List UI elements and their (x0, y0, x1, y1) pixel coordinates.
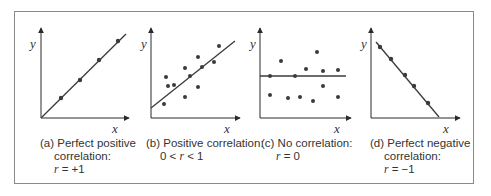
panel-a-plot: y x (28, 28, 129, 136)
data-point (166, 84, 170, 88)
data-point (162, 102, 166, 106)
data-point (212, 60, 216, 64)
data-point (311, 99, 315, 103)
data-point (172, 83, 176, 87)
data-point (116, 39, 120, 43)
panel-b-plot: y x (139, 28, 240, 136)
data-point (188, 74, 192, 78)
data-point (298, 95, 302, 99)
data-point (268, 93, 272, 97)
caption-b-post: < 1 (184, 150, 204, 162)
panel-d-plot: y x (359, 28, 460, 136)
caption-a-value: = +1 (58, 163, 84, 175)
caption-b-pre: 0 < (160, 150, 180, 162)
panel-c-plot: y x (248, 28, 351, 136)
x-axis-label-c: x (333, 121, 340, 136)
x-axis-label-a: x (111, 121, 118, 136)
caption-b-line1: (b) Positive correlation: (146, 137, 264, 149)
data-point (164, 75, 168, 79)
caption-c-value: = 0 (280, 150, 300, 162)
caption-b: (b) Positive correlation: 0 < r < 1 (146, 137, 264, 163)
data-point (315, 50, 319, 54)
data-point (336, 68, 340, 72)
data-point (196, 85, 200, 89)
data-point (200, 65, 204, 69)
fit-line-a (41, 34, 126, 118)
x-axis-label-d: x (442, 121, 449, 136)
data-point (321, 69, 325, 73)
caption-a-line1: (a) Perfect positive (40, 137, 136, 149)
caption-d-line1: (d) Perfect negative (370, 137, 470, 149)
data-point (426, 101, 430, 105)
caption-d: (d) Perfect negative correlation: r = −1 (370, 137, 470, 176)
caption-c: (c) No correlation: r = 0 (261, 137, 352, 163)
data-point (293, 74, 297, 78)
data-point (403, 73, 407, 77)
data-point (183, 66, 187, 70)
y-axis-label-a: y (28, 36, 36, 51)
data-point (286, 96, 290, 100)
data-point (389, 57, 393, 61)
data-point (78, 78, 82, 82)
caption-a: (a) Perfect positive correlation: r = +1 (40, 137, 136, 176)
data-point (268, 74, 272, 78)
caption-a-line2: correlation: (40, 150, 136, 163)
data-point (97, 58, 101, 62)
x-axis-label-b: x (223, 121, 230, 136)
caption-c-line1: (c) No correlation: (261, 137, 352, 149)
data-point (336, 95, 340, 99)
data-point (217, 44, 221, 48)
data-point (304, 67, 308, 71)
data-point (196, 55, 200, 59)
data-point (59, 96, 63, 100)
data-point (321, 84, 325, 88)
data-point (412, 84, 416, 88)
fit-line-b (151, 41, 235, 108)
data-point (183, 95, 187, 99)
caption-d-value: = −1 (388, 163, 414, 175)
data-point (279, 59, 283, 63)
fit-line-d (376, 42, 439, 117)
y-axis-label-b: y (139, 36, 147, 51)
caption-d-line2: correlation: (370, 150, 470, 163)
y-axis-label-c: y (248, 36, 256, 51)
y-axis-label-d: y (359, 36, 367, 51)
data-point (378, 45, 382, 49)
